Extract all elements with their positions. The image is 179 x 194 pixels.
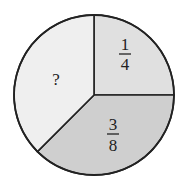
label-unknown: ? [52, 70, 60, 89]
label-three-eighths-denominator: 8 [109, 136, 118, 155]
pie-chart: 1 4 3 8 ? [0, 0, 179, 194]
slice-one-quarter [94, 15, 174, 95]
label-one-quarter: 1 4 [119, 35, 131, 74]
label-three-eighths-numerator: 3 [109, 115, 118, 134]
label-one-quarter-denominator: 4 [121, 55, 130, 74]
label-one-quarter-numerator: 1 [121, 35, 130, 54]
